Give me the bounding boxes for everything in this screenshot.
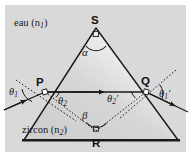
angle-label-theta1-subscript: 1: [14, 90, 18, 99]
ray-diagram-canvas: eau (n1) zircon (n2) S P Q R α θ1 θ2 θ2′…: [0, 0, 190, 156]
angle-label-alpha: α: [82, 46, 88, 58]
medium-label-upper-text: eau (n: [14, 17, 41, 29]
point-label-s: S: [91, 14, 99, 26]
point-label-p: P: [36, 76, 44, 88]
point-q-square-marker: [143, 89, 149, 95]
optics-figure: eau (n1) zircon (n2) S P Q R α θ1 θ2 θ2′…: [0, 0, 190, 156]
medium-label-lower-text: zircon (n: [22, 124, 60, 136]
medium-label-upper-close: ): [44, 17, 48, 29]
medium-label-lower-close: ): [64, 124, 68, 136]
angle-label-theta2-subscript: 2: [63, 99, 67, 108]
point-p-square-marker: [42, 89, 48, 95]
point-label-q: Q: [141, 75, 150, 87]
angle-label-beta: β: [81, 109, 88, 121]
point-label-r: R: [92, 137, 101, 149]
